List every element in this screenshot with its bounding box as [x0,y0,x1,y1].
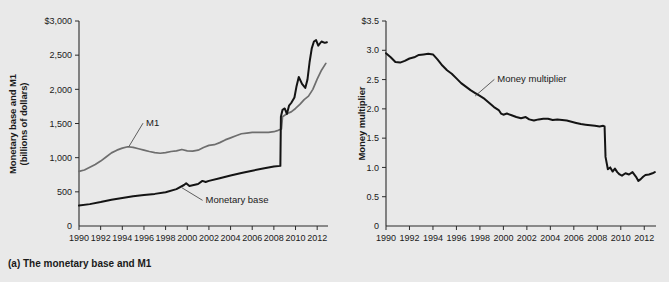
y-tick-label: 1.5 [366,133,379,143]
x-tick-label: 2012 [307,233,327,243]
y-tick-label: 2.0 [366,104,379,114]
x-tick-label: 2008 [587,233,607,243]
x-tick-label: 2006 [564,233,584,243]
x-tick-label: 1990 [376,233,396,243]
x-tick-label: 1996 [446,233,466,243]
y-tick-label: 0 [67,221,72,231]
panel-a-caption: (a) The monetary base and M1 [8,258,151,269]
x-tick-label: 2010 [286,233,306,243]
y-tick-label: 1,000 [49,153,72,163]
x-tick-label: 1994 [423,233,443,243]
annotation-label-money-multiplier: Money multiplier [497,73,566,84]
x-tick-label: 1992 [91,233,111,243]
x-tick-label: 2010 [611,233,631,243]
y-tick-label: 2,500 [49,50,72,60]
chart-panel-money-multiplier: Money multiplier $3.53.02.52.01.51.00.50… [334,0,669,282]
x-tick-label: 2008 [264,233,284,243]
chart-canvas-panel-b: $3.53.02.52.01.51.00.5019901992199419961… [334,0,669,255]
x-tick-label: 2002 [517,233,537,243]
x-tick-label: 1996 [134,233,154,243]
y-tick-label: 2.5 [366,75,379,85]
x-tick-label: 1990 [69,233,89,243]
x-tick-label: 2000 [493,233,513,243]
x-tick-label: 2012 [634,233,654,243]
economics-figure: Monetary base and M1 (billions of dollar… [0,0,669,282]
annotation-leader-line [182,188,203,201]
y-tick-label: 2,000 [49,85,72,95]
y-tick-label: 3.0 [366,45,379,55]
series-line-m1 [79,63,326,171]
x-tick-label: 2002 [199,233,219,243]
y-tick-label: 0.5 [366,192,379,202]
series-line-monetary-base [79,40,327,205]
x-tick-label: 2004 [540,233,560,243]
y-tick-label: 1.0 [366,163,379,173]
y-tick-label: 1,500 [49,119,72,129]
y-tick-label: 0 [374,221,379,231]
annotation-label-m1: M1 [146,117,159,128]
x-tick-label: 1998 [470,233,490,243]
chart-panel-monetary-base-m1: Monetary base and M1 (billions of dollar… [0,0,334,282]
y-tick-label: $3.5 [361,16,379,26]
annotation-leader-line [475,79,494,96]
x-tick-label: 2004 [221,233,241,243]
x-tick-label: 2006 [242,233,262,243]
x-tick-label: 2000 [177,233,197,243]
x-tick-label: 1994 [112,233,132,243]
x-tick-label: 1992 [399,233,419,243]
annotation-label-monetary-base: Monetary base [206,194,269,205]
annotation-leader-line [129,123,143,147]
x-tick-label: 1998 [156,233,176,243]
y-tick-label: $3,000 [44,16,72,26]
chart-canvas-panel-a: $3,0002,5002,0001,5001,00050001990199219… [0,0,334,255]
y-tick-label: 500 [57,187,72,197]
